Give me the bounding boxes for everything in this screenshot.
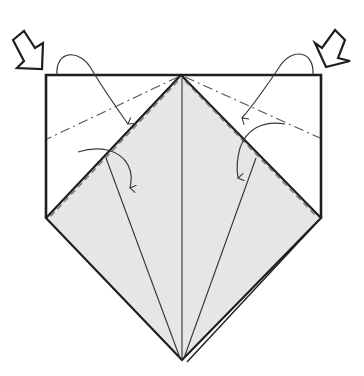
push-arrow-right-icon bbox=[315, 30, 350, 67]
diagram-svg bbox=[0, 0, 364, 376]
push-arrow-left-icon bbox=[13, 31, 43, 69]
origami-diagram: origami-fold-step bbox=[0, 0, 364, 376]
